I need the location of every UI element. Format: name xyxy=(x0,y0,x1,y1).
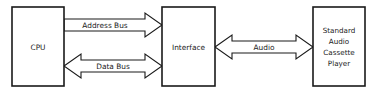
interface-label: Interface xyxy=(172,43,206,52)
cassette-player-label-line-1: Standard xyxy=(323,26,356,35)
cassette-player-label-line-3: Cassette xyxy=(323,48,355,57)
cassette-player-box xyxy=(313,7,365,86)
node-cpu: CPU xyxy=(12,7,64,86)
data-bus-label: Data Bus xyxy=(96,62,130,71)
edge-audio: Audio xyxy=(215,35,313,59)
node-interface: Interface xyxy=(162,7,215,86)
audio-label: Audio xyxy=(253,43,274,52)
block-diagram: Address Bus Data Bus Audio CPU Interface… xyxy=(0,0,377,94)
edge-data-bus: Data Bus xyxy=(64,54,162,78)
address-bus-label: Address Bus xyxy=(82,21,128,30)
edge-address-bus: Address Bus xyxy=(64,13,162,37)
node-cassette-player: Standard Audio Cassette Player xyxy=(313,7,365,86)
diagram-canvas: Address Bus Data Bus Audio CPU Interface… xyxy=(0,0,377,94)
cassette-player-label-line-2: Audio xyxy=(329,37,349,46)
cpu-label: CPU xyxy=(30,43,45,52)
cassette-player-label-line-4: Player xyxy=(328,59,350,68)
